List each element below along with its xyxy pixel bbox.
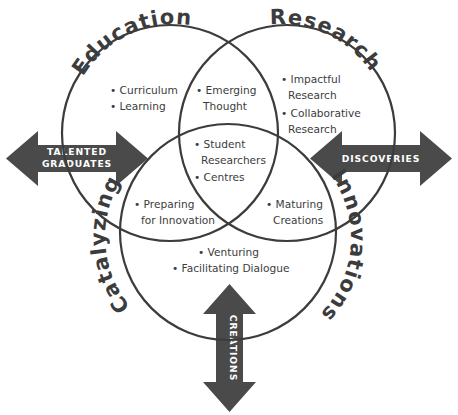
label-education: Education: [67, 5, 193, 80]
region-education-research: • Emerging Thought: [196, 84, 256, 112]
bullet-venturing: • Venturing: [198, 246, 259, 258]
talented-graduates-label-line1: TALENTED: [47, 146, 107, 157]
bullet-student-line2: Researchers: [201, 154, 266, 166]
bullet-student-line1: • Student: [194, 138, 245, 150]
bullet-facilitating-dialogue: • Facilitating Dialogue: [172, 262, 289, 274]
bullet-impactful-line1: • Impactful: [281, 73, 341, 85]
creations-label: CREATIONS: [228, 315, 239, 381]
bullet-learning: • Learning: [110, 100, 166, 112]
discoveries-label: DISCOVERIES: [342, 153, 421, 164]
bullet-impactful-line2: Research: [288, 89, 337, 101]
label-education-text: Education: [67, 5, 193, 80]
label-research-text: Research: [269, 5, 386, 76]
label-innovations: Innovations: [316, 165, 370, 327]
bullet-curriculum: • Curriculum: [110, 84, 178, 96]
bullet-preparing-line2: for Innovation: [141, 214, 215, 226]
bullet-centres: • Centres: [194, 171, 245, 183]
region-research-innovations: • Maturing Creations: [266, 198, 323, 226]
bullet-preparing-line1: • Preparing: [134, 198, 194, 210]
bullet-maturing-line2: Creations: [273, 214, 323, 226]
talented-graduates-label-line2: GRADUATES: [42, 158, 112, 169]
venn-diagram-root: TALENTED GRADUATES DISCOVERIES CREATIONS…: [0, 0, 458, 415]
bullet-collaborative-line2: Research: [288, 123, 337, 135]
arrow-creations: CREATIONS: [203, 284, 256, 412]
label-innovations-text: Innovations: [316, 165, 370, 327]
region-education-only: • Curriculum • Learning: [110, 84, 178, 112]
label-research: Research: [269, 5, 386, 76]
bullet-collaborative-line1: • Collaborative: [281, 107, 361, 119]
region-innovations-only: • Venturing • Facilitating Dialogue: [172, 246, 289, 274]
region-research-only: • Impactful Research • Collaborative Res…: [281, 73, 361, 135]
bullet-emerging-line1: • Emerging: [196, 84, 256, 96]
region-center-all-three: • Student Researchers • Centres: [194, 138, 266, 183]
venn-diagram-canvas: TALENTED GRADUATES DISCOVERIES CREATIONS…: [0, 0, 458, 415]
bullet-emerging-line2: Thought: [202, 100, 247, 112]
bullet-maturing-line1: • Maturing: [266, 198, 323, 210]
arrow-talented-graduates: TALENTED GRADUATES: [6, 131, 148, 186]
